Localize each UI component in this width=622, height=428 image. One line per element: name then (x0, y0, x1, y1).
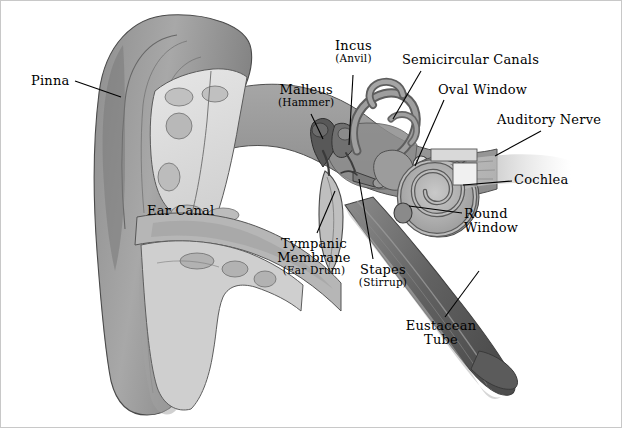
leader-auditory-nerve (495, 131, 541, 156)
label-stapes-subtext: (Stirrup) (353, 277, 413, 288)
label-malleus: Malleus (Hammer) (278, 83, 334, 108)
label-ear-canal: Ear Canal (147, 204, 214, 218)
label-semicircular-canals-text: Semicircular Canals (402, 53, 539, 67)
label-stapes-text: Stapes (353, 263, 413, 277)
label-incus-subtext: (Anvil) (335, 53, 372, 64)
label-oval-window: Oval Window (438, 83, 527, 97)
label-auditory-nerve: Auditory Nerve (497, 113, 601, 127)
label-tympanic-membrane-subtext: (Ear Drum) (269, 265, 359, 276)
label-round-window-line1: Round (464, 207, 534, 221)
label-stapes: Stapes (Stirrup) (353, 263, 413, 288)
label-cochlea-text: Cochlea (514, 173, 568, 187)
label-round-window: Round Window (464, 207, 534, 235)
label-round-window-line2: Window (464, 221, 534, 235)
label-malleus-subtext: (Hammer) (278, 97, 334, 108)
label-cochlea: Cochlea (514, 173, 568, 187)
label-semicircular-canals: Semicircular Canals (402, 53, 539, 67)
label-incus-text: Incus (335, 39, 372, 53)
label-eustacean-tube-line2: Tube (398, 333, 484, 347)
label-pinna-text: Pinna (31, 74, 69, 88)
label-tympanic-membrane-line2: Membrane (269, 251, 359, 265)
label-eustacean-tube: Eustacean Tube (398, 319, 484, 347)
label-pinna: Pinna (31, 74, 69, 88)
ear-anatomy-diagram: Pinna Malleus (Hammer) Incus (Anvil) Sem… (0, 0, 622, 428)
label-malleus-text: Malleus (278, 83, 334, 97)
label-incus: Incus (Anvil) (335, 39, 372, 64)
label-ear-canal-text: Ear Canal (147, 204, 214, 218)
label-eustacean-tube-line1: Eustacean (398, 319, 484, 333)
label-tympanic-membrane: Tympanic Membrane (Ear Drum) (269, 237, 359, 276)
label-oval-window-text: Oval Window (438, 83, 527, 97)
label-tympanic-membrane-line1: Tympanic (269, 237, 359, 251)
label-auditory-nerve-text: Auditory Nerve (497, 113, 601, 127)
